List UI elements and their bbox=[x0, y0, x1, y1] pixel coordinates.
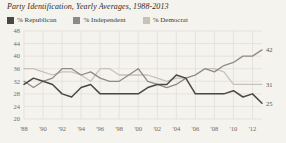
y-axis-tick-label: 48 bbox=[14, 27, 21, 34]
x-axis-tick-label: '92 bbox=[58, 125, 66, 132]
legend-item-republican: % Republican bbox=[7, 16, 56, 24]
x-axis-tick-label: '10 bbox=[230, 125, 238, 132]
legend-item-democrat: % Democrat bbox=[143, 16, 188, 24]
legend-swatch-independent bbox=[73, 17, 80, 24]
x-axis-tick-label: '06 bbox=[192, 125, 200, 132]
x-axis-tick-label: '98 bbox=[115, 125, 123, 132]
legend-label-republican: % Republican bbox=[17, 16, 56, 24]
legend-label-democrat: % Democrat bbox=[153, 16, 188, 24]
x-axis-tick-label: '88 bbox=[20, 125, 28, 132]
y-axis-tick-label: 32 bbox=[14, 78, 21, 85]
y-axis-tick-label: 44 bbox=[14, 40, 21, 47]
end-label-democrat: 31 bbox=[266, 81, 273, 88]
x-axis-tick-label: '94 bbox=[77, 125, 85, 132]
plot-area: 2024283236404448 '88'90'92'94'96'98'00'0… bbox=[0, 27, 286, 143]
chart-title: Party Identification, Yearly Averages, 1… bbox=[7, 2, 169, 11]
x-axis-tick-label: '00 bbox=[134, 125, 142, 132]
x-axis-tick-label: '12 bbox=[249, 125, 257, 132]
legend-item-independent: % Independent bbox=[73, 16, 125, 24]
series-end-labels: 314225 bbox=[266, 46, 273, 106]
chart-svg: 2024283236404448 '88'90'92'94'96'98'00'0… bbox=[0, 27, 286, 143]
y-axis-tick-label: 28 bbox=[14, 90, 21, 97]
y-axis-tick-label: 40 bbox=[14, 52, 21, 59]
x-axis-tick-label: '90 bbox=[39, 125, 47, 132]
x-axis-tick-label: '96 bbox=[96, 125, 104, 132]
party-identification-chart: Party Identification, Yearly Averages, 1… bbox=[0, 0, 286, 143]
y-axis-tick-label: 20 bbox=[14, 115, 21, 122]
legend-label-independent: % Independent bbox=[83, 16, 125, 24]
x-axis-tick-label: '02 bbox=[153, 125, 161, 132]
y-axis-tick-label: 36 bbox=[14, 65, 21, 72]
y-axis-tick-label: 24 bbox=[14, 103, 21, 110]
x-axis-labels: '88'90'92'94'96'98'00'02'04'06'08'10'12 bbox=[20, 125, 256, 132]
end-label-republican: 25 bbox=[266, 100, 273, 107]
end-label-independent: 42 bbox=[266, 46, 273, 53]
data-series bbox=[24, 50, 262, 103]
x-axis-tick-label: '08 bbox=[211, 125, 219, 132]
legend-swatch-republican bbox=[7, 17, 14, 24]
x-axis-tick-label: '04 bbox=[172, 125, 180, 132]
y-axis-labels: 2024283236404448 bbox=[14, 27, 21, 122]
chart-legend: % Republican % Independent % Democrat bbox=[7, 15, 205, 25]
series-line-republican bbox=[24, 75, 262, 103]
legend-swatch-democrat bbox=[143, 17, 150, 24]
